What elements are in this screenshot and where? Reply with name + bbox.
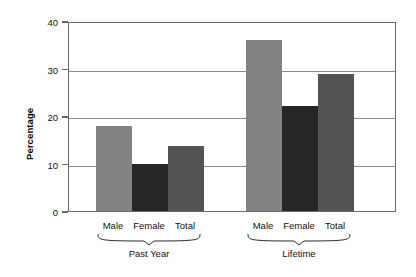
x-category-label-past-year-total: Total xyxy=(175,220,195,231)
bar-lifetime-female xyxy=(282,106,318,211)
bar-chart: Percentage 010203040 MaleFemaleTotalPast… xyxy=(0,0,416,277)
group-brace-lifetime xyxy=(247,234,351,246)
gridline-30 xyxy=(69,71,395,72)
y-tick-label-20: 20 xyxy=(24,112,58,123)
group-name-lifetime: Lifetime xyxy=(282,248,315,259)
x-category-label-past-year-male: Male xyxy=(103,220,124,231)
bar-lifetime-male xyxy=(246,40,282,211)
group-brace-past-year xyxy=(97,234,201,246)
bar-lifetime-total xyxy=(318,74,354,211)
bar-past-year-female xyxy=(132,164,168,211)
plot-area xyxy=(68,22,396,212)
y-axis-title: Percentage xyxy=(24,144,35,160)
y-tick-label-40: 40 xyxy=(24,17,58,28)
y-tick-label-30: 30 xyxy=(24,64,58,75)
x-category-label-lifetime-male: Male xyxy=(253,220,274,231)
x-category-label-lifetime-total: Total xyxy=(325,220,345,231)
bar-past-year-total xyxy=(168,146,204,211)
x-category-label-past-year-female: Female xyxy=(133,220,165,231)
bar-past-year-male xyxy=(96,126,132,211)
group-name-past-year: Past Year xyxy=(129,248,170,259)
x-category-label-lifetime-female: Female xyxy=(283,220,315,231)
y-tick-label-10: 10 xyxy=(24,159,58,170)
y-tick-label-0: 0 xyxy=(24,207,58,218)
